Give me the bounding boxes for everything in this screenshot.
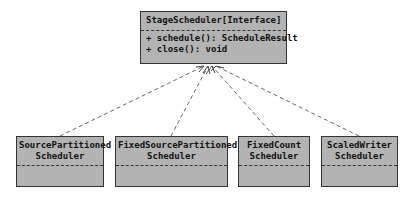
arrowhead-1 bbox=[196, 66, 204, 72]
class-name-line2: Scheduler bbox=[335, 151, 384, 161]
interface-title: StageScheduler[Interface] bbox=[141, 12, 286, 31]
operation-schedule: + schedule(): ScheduleResult bbox=[146, 33, 281, 44]
arrow-sourcepartitioned bbox=[60, 66, 204, 136]
operation-close: + close(): void bbox=[146, 44, 281, 55]
class-fixedsourcepartitioned-scheduler: FixedSourcePartitionedScheduler bbox=[115, 136, 228, 187]
class-name-line1: ScaledWriter bbox=[327, 140, 392, 150]
class-title: FixedCountScheduler bbox=[239, 137, 309, 166]
class-scaledwriter-scheduler: ScaledWriterScheduler bbox=[321, 136, 398, 187]
class-title: SourcePartitionedScheduler bbox=[17, 137, 103, 166]
class-name-line2: Scheduler bbox=[250, 151, 299, 161]
class-fixedcount-scheduler: FixedCountScheduler bbox=[238, 136, 310, 187]
class-title: FixedSourcePartitionedScheduler bbox=[116, 137, 227, 166]
arrow-fixedsourcepartitioned bbox=[171, 66, 208, 136]
interface-stagescheduler: StageScheduler[Interface] + schedule(): … bbox=[140, 11, 287, 64]
class-sourcepartitioned-scheduler: SourcePartitionedScheduler bbox=[16, 136, 104, 187]
interface-operations: + schedule(): ScheduleResult + close(): … bbox=[141, 31, 286, 57]
class-name-line2: Scheduler bbox=[147, 151, 196, 161]
class-name-line1: FixedSourcePartitioned bbox=[118, 140, 237, 150]
class-title: ScaledWriterScheduler bbox=[322, 137, 397, 166]
class-name-line2: Scheduler bbox=[36, 151, 85, 161]
class-name-line1: SourcePartitioned bbox=[19, 140, 111, 150]
arrow-fixedcount bbox=[212, 66, 274, 136]
class-name-line1: FixedCount bbox=[247, 140, 301, 150]
arrow-scaledwriter bbox=[216, 66, 359, 136]
